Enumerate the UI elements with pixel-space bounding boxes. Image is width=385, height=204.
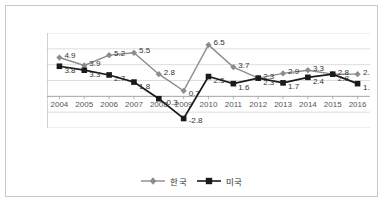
data-point-label: 3.8 [64,66,76,75]
data-point-label: 1.6 [363,83,370,92]
data-point-marker[interactable] [56,54,62,60]
data-point-label: -2.8 [189,116,203,125]
data-point-label: 2.3 [263,78,275,87]
x-axis-tick-label: 2014 [299,100,317,109]
data-point-label: 2.8 [363,68,370,77]
chart-plot-area: 8%6%4%2%0%-2%-4%200420052006200720082009… [47,33,370,128]
data-point-marker[interactable] [305,67,311,73]
x-axis-tick-label: 2004 [51,100,69,109]
x-axis-tick-label: 2006 [100,100,118,109]
data-point-label: 6.5 [214,38,226,47]
data-point-marker[interactable] [81,67,87,73]
data-point-label: 1.6 [238,83,250,92]
legend-item-korea[interactable]: 한국 [140,175,187,187]
chart-frame: 8%6%4%2%0%-2%-4%200420052006200720082009… [5,5,378,197]
x-axis-tick-label: 2015 [324,100,342,109]
data-point-marker[interactable] [131,79,137,85]
legend-diamond-marker-icon [140,176,166,186]
data-point-label: 2.5 [214,76,226,85]
legend-label-korea: 한국 [170,175,187,187]
x-axis-tick-label: 2011 [225,100,243,109]
data-point-label: 2.9 [288,67,300,76]
data-point-label: 3.7 [238,61,250,70]
x-axis-tick-label: 2013 [274,100,292,109]
data-point-marker[interactable] [106,52,112,58]
data-point-marker[interactable] [330,71,336,77]
data-point-label: 5.2 [114,49,126,58]
data-point-label: 4.9 [64,51,76,60]
data-point-marker[interactable] [106,72,112,78]
data-point-label: 2.4 [313,77,325,86]
data-point-label: 1.7 [288,82,300,91]
x-axis-tick-label: 2010 [200,100,218,109]
data-point-marker[interactable] [231,81,237,87]
data-point-label: 2.8 [338,74,350,83]
data-point-label: 2.8 [164,68,176,77]
x-axis-tick-label: 2007 [125,100,143,109]
data-point-marker[interactable] [354,71,360,77]
data-point-label: 2.7 [114,74,126,83]
data-point-marker[interactable] [280,70,286,76]
data-point-marker[interactable] [355,81,361,87]
x-axis-tick-label: 2016 [349,100,367,109]
data-point-label: 5.5 [139,46,151,55]
data-point-marker[interactable] [206,74,212,80]
legend-item-usa[interactable]: 미국 [196,175,243,187]
data-point-marker[interactable] [305,75,311,81]
data-point-label: 3.9 [89,59,101,68]
data-point-marker[interactable] [280,80,286,86]
legend-square-marker-icon [196,176,222,186]
data-point-marker[interactable] [57,63,63,69]
legend-label-usa: 미국 [226,175,243,187]
data-point-marker[interactable] [181,116,187,122]
data-point-marker[interactable] [255,75,261,81]
data-point-label: 3.3 [313,64,325,73]
data-point-label: 1.8 [139,82,151,91]
x-axis-tick-label: 2012 [249,100,267,109]
data-point-label: 3.3 [89,70,101,79]
data-point-label: -0.3 [164,98,178,107]
line-chart-svg: 8%6%4%2%0%-2%-4%200420052006200720082009… [47,33,370,128]
data-point-marker[interactable] [156,96,162,102]
x-axis-tick-label: 2005 [75,100,93,109]
chart-legend: 한국 미국 [6,175,377,187]
